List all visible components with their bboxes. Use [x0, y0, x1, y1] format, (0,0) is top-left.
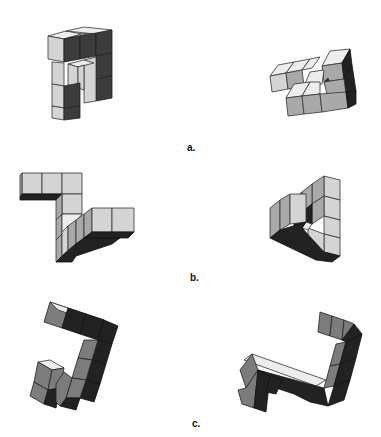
- pair-label-b: b.: [190, 272, 199, 283]
- cube-structure-b-right: [258, 172, 348, 262]
- cube-structure-a-right: [266, 46, 360, 118]
- pair-label-a: a.: [187, 142, 195, 153]
- block-figure-b-right: [258, 172, 348, 262]
- cube-structure-a-left: [46, 26, 118, 122]
- cube-structure-c-right: [236, 310, 366, 414]
- cube-structure-c-left: [24, 298, 124, 414]
- pair-label-c: c.: [192, 418, 200, 429]
- block-figure-a-right: [266, 46, 360, 118]
- block-figure-b-left: [16, 170, 140, 260]
- block-figure-c-left: [24, 298, 124, 414]
- cube-structure-b-left: [16, 170, 140, 260]
- block-figure-c-right: [236, 310, 366, 414]
- block-figure-a-left: [46, 26, 118, 122]
